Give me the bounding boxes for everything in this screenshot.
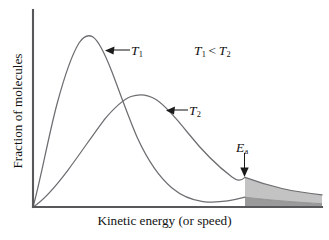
temperature-comparison-note: T1<T2 bbox=[194, 44, 231, 58]
activation-energy-label: Ea bbox=[236, 141, 248, 155]
arrowhead-ea bbox=[240, 168, 248, 178]
curve-label-t1: T1 bbox=[131, 44, 143, 58]
arrowhead-t1 bbox=[105, 47, 115, 55]
curve-t1 bbox=[33, 36, 245, 207]
y-axis-label-wrapper: Fraction of molecules bbox=[11, 21, 33, 201]
y-axis-label: Fraction of molecules bbox=[11, 21, 24, 201]
curve-label-t2: T2 bbox=[189, 104, 201, 118]
distribution-figure: T1 T2 T1<T2 Ea Kinetic energy (or speed)… bbox=[0, 0, 329, 240]
comparison-operator: < bbox=[206, 43, 219, 58]
x-axis-label: Kinetic energy (or speed) bbox=[0, 214, 329, 227]
curve-t2 bbox=[33, 95, 245, 207]
plot-canvas bbox=[0, 0, 329, 240]
